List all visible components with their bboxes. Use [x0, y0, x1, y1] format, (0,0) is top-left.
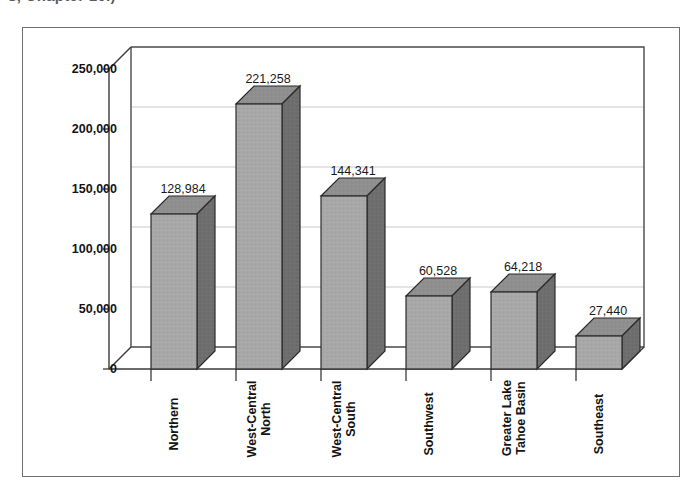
cat-label-line: South: [344, 374, 358, 464]
bar-front-face: [321, 196, 367, 369]
cat-label-line: West-Central: [330, 374, 344, 464]
bar-side-face: [282, 86, 300, 369]
bar-front-face: [151, 214, 197, 369]
cat-label-southeast: Southeast: [592, 384, 606, 464]
y-tick-label-250000: 250,000: [72, 62, 117, 76]
bar-southeast[interactable]: [576, 318, 640, 369]
bar-west-central-south[interactable]: [321, 178, 385, 369]
cat-label-line: Southeast: [592, 384, 606, 464]
value-label-southwest: 60,528: [419, 264, 457, 278]
bar-greater-lake-tahoe-basin[interactable]: [491, 274, 555, 369]
bar-southwest[interactable]: [406, 278, 470, 369]
cat-label-line: West-Central: [245, 374, 259, 464]
y-tick-label-100000: 100,000: [72, 242, 117, 256]
bar-northern[interactable]: [151, 196, 215, 369]
y-tick-label-50000: 50,000: [79, 302, 117, 316]
bar-side-face: [197, 196, 215, 369]
value-label-west-central-south: 144,341: [330, 164, 375, 178]
cat-label-west-central-south: West-Central South: [330, 374, 358, 464]
cat-label-west-central-north: West-Central North: [245, 374, 273, 464]
value-label-west-central-north: 221,258: [245, 72, 290, 86]
y-tick-label-200000: 200,000: [72, 122, 117, 136]
cat-label-line: Northern: [167, 384, 181, 464]
value-label-northern: 128,984: [160, 182, 205, 196]
bar-west-central-north[interactable]: [236, 86, 300, 369]
y-tick-label-150000: 150,000: [72, 182, 117, 196]
bar-side-face: [367, 178, 385, 369]
cat-label-line: Southwest: [422, 384, 436, 464]
bar-front-face: [491, 292, 537, 369]
cropped-caption-strip: s, Chapter 10.): [0, 0, 699, 13]
bar-front-face: [406, 296, 452, 369]
y-axis-tick-labels: 0 50,000 100,000 150,000 200,000 250,000: [35, 28, 117, 478]
value-label-southeast: 27,440: [589, 304, 627, 318]
cat-label-greater-lake-tahoe-basin: Greater Lake Tahoe Basin: [500, 372, 528, 464]
bar-front-face: [576, 336, 622, 369]
cat-label-northern: Northern: [167, 384, 181, 464]
cat-label-line: Greater Lake: [500, 372, 514, 464]
cat-label-line: Tahoe Basin: [514, 372, 528, 464]
y-tick-label-0: 0: [110, 362, 117, 376]
bar-front-face: [236, 104, 282, 369]
figure-frame: 0 50,000 100,000 150,000 200,000 250,000…: [22, 27, 680, 477]
cat-label-southwest: Southwest: [422, 384, 436, 464]
cat-label-line: North: [259, 374, 273, 464]
cropped-caption-text: s, Chapter 10.): [8, 0, 116, 4]
value-label-greater-lake-tahoe-basin: 64,218: [504, 260, 542, 274]
